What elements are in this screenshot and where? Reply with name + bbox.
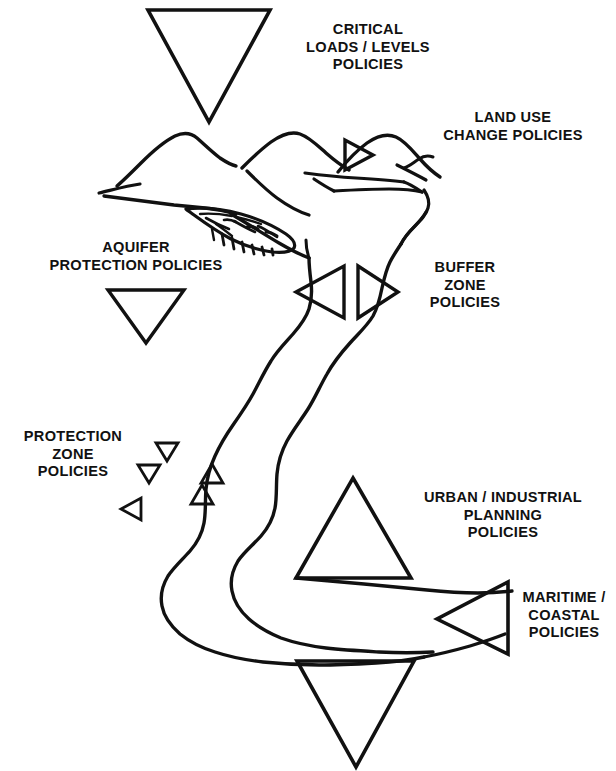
label-land-use-change: LAND USE CHANGE POLICIES (424, 108, 603, 143)
aquifer-marker[interactable] (108, 290, 184, 343)
label-buffer-zone: BUFFER ZONE POLICIES (408, 258, 523, 311)
diagram-canvas: CRITICAL LOADS / LEVELS POLICIES LAND US… (0, 0, 616, 771)
estuary-marker[interactable] (297, 661, 414, 767)
label-urban-industrial: URBAN / INDUSTRIAL PLANNING POLICIES (406, 488, 600, 541)
protection-zone-marker-3[interactable] (121, 498, 141, 520)
land-use-marker[interactable] (345, 140, 373, 170)
urban-industrial-marker[interactable] (296, 478, 411, 578)
label-maritime-coastal: MARITIME / COASTAL POLICIES (515, 588, 613, 641)
buffer-zone-marker-left[interactable] (296, 266, 344, 318)
protection-zone-marker-5[interactable] (191, 485, 213, 504)
river (161, 212, 433, 665)
protection-zone-marker-2[interactable] (138, 465, 160, 483)
coastline (296, 578, 512, 657)
label-protection-zone: PROTECTION ZONE POLICIES (12, 427, 134, 480)
critical-loads-marker[interactable] (148, 10, 270, 122)
buffer-zone-marker-right[interactable] (358, 266, 398, 318)
label-critical-loads: CRITICAL LOADS / LEVELS POLICIES (283, 20, 452, 73)
label-aquifer-protection: AQUIFER PROTECTION POLICIES (34, 238, 237, 273)
protection-zone-marker-1[interactable] (156, 443, 178, 461)
